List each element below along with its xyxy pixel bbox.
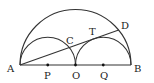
label-C: C	[66, 35, 74, 46]
label-T: T	[89, 26, 96, 37]
label-Q: Q	[100, 70, 108, 81]
point-Q	[102, 64, 105, 67]
point-O	[74, 64, 77, 67]
label-D: D	[121, 20, 129, 31]
label-B: B	[134, 63, 141, 74]
point-P	[46, 64, 49, 67]
label-P: P	[44, 70, 51, 81]
large-semicircle	[20, 10, 131, 66]
label-A: A	[6, 63, 15, 74]
label-O: O	[72, 70, 80, 81]
geometry-figure: A B P O Q C T D	[0, 0, 154, 83]
right-small-semicircle	[76, 37, 132, 65]
